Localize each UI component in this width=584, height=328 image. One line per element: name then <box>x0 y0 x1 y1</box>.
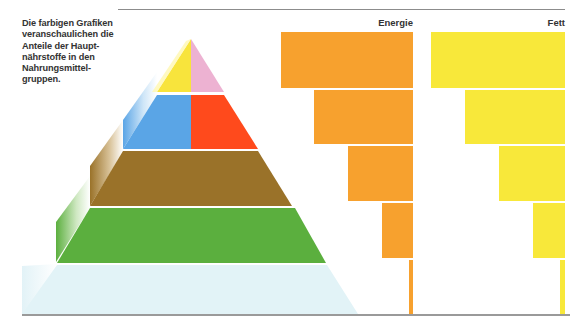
bottom-divider <box>22 314 570 316</box>
energie-bar-3 <box>348 146 413 201</box>
energie-bar-4 <box>382 203 413 258</box>
pyramid-tier-1 <box>152 39 224 92</box>
fett-bar-4 <box>533 203 565 258</box>
fett-bar-3 <box>499 146 565 201</box>
energie-bar-5 <box>409 260 413 314</box>
energie-bar-2 <box>314 90 413 144</box>
pyramid-tier-5 <box>22 264 358 314</box>
column-title-energie: Energie <box>360 17 413 28</box>
fett-bar-2 <box>465 90 565 144</box>
fett-bar-1 <box>431 32 565 88</box>
fett-bar-5 <box>560 260 565 314</box>
column-title-fett: Fett <box>520 17 565 28</box>
energie-bar-1 <box>281 32 413 88</box>
